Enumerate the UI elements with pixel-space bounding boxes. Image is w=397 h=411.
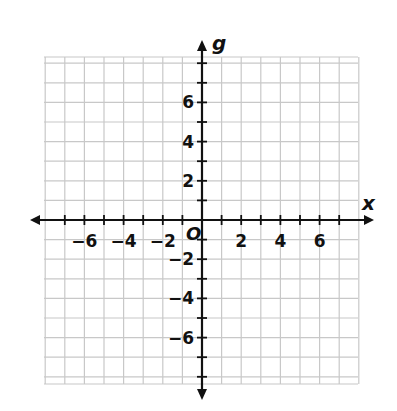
y-tick-label: −4: [168, 288, 194, 308]
y-tick-label: −6: [168, 328, 194, 348]
x-axis-label: x: [361, 191, 376, 215]
y-axis-label: g: [212, 31, 226, 55]
y-tick-label: 6: [182, 92, 194, 112]
coordinate-grid: −6−4−2246642−2−4−6 x g O: [0, 0, 397, 411]
x-tick-label: −2: [150, 231, 176, 251]
axes: [30, 40, 374, 400]
x-tick-label: −6: [71, 231, 97, 251]
x-tick-label: 2: [235, 231, 247, 251]
y-tick-label: 2: [182, 171, 194, 191]
y-tick-label: −2: [168, 249, 194, 269]
origin-label: O: [186, 223, 201, 244]
x-tick-label: 6: [314, 231, 326, 251]
x-tick-label: −4: [111, 231, 137, 251]
x-tick-label: 4: [274, 231, 286, 251]
y-tick-label: 4: [182, 132, 194, 152]
